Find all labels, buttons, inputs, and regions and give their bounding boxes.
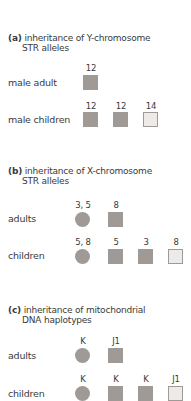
allele-value: 8 xyxy=(161,237,191,247)
allele-value: 3 xyxy=(131,237,161,247)
allele-value: 14 xyxy=(136,101,166,111)
panel-a-heading: (a) inheritance of Y-chromosome STR alle… xyxy=(8,33,150,53)
panel-b-title-line1: inheritance of X-chromosome xyxy=(25,166,152,176)
male-square-unfilled-symbol xyxy=(143,112,158,127)
panel-a-tag: (a) xyxy=(8,33,22,43)
allele-value: 5 xyxy=(101,237,131,247)
panel-c-tag: (c) xyxy=(8,305,21,315)
haplotype-value: J1 xyxy=(101,336,131,346)
panel-b-title-line2: STR alleles xyxy=(8,176,152,186)
panel-b-heading: (b) inheritance of X-chromosome STR alle… xyxy=(8,166,152,186)
male-square-symbol xyxy=(113,112,128,127)
male-square-symbol xyxy=(108,386,123,401)
male-square-symbol xyxy=(108,212,123,227)
panel-c-title-line1: inheritance of mitochondrial xyxy=(24,305,146,315)
male-square-symbol xyxy=(108,249,123,264)
row-label-male-adult: male adult xyxy=(8,77,57,88)
female-circle-symbol xyxy=(75,249,90,264)
male-square-symbol xyxy=(138,249,153,264)
female-circle-symbol xyxy=(75,348,90,363)
row-label-children: children xyxy=(8,388,45,399)
male-square-symbol xyxy=(83,75,98,90)
panel-b-tag: (b) xyxy=(8,166,22,176)
allele-value: 5, 8 xyxy=(68,237,98,247)
allele-value: 12 xyxy=(76,101,106,111)
row-label-children: children xyxy=(8,250,45,261)
allele-value: 3, 5 xyxy=(68,200,98,210)
female-circle-symbol xyxy=(75,386,90,401)
panel-a-title-line1: inheritance of Y-chromosome xyxy=(24,33,150,43)
haplotype-value: K xyxy=(131,374,161,384)
row-label-adults: adults xyxy=(8,213,36,224)
panel-a-title-line2: STR alleles xyxy=(8,43,150,53)
male-square-symbol xyxy=(138,386,153,401)
male-square-symbol xyxy=(108,348,123,363)
panel-c-heading: (c) inheritance of mitochondrial DNA hap… xyxy=(8,305,145,325)
panel-c-title-line2: DNA haplotypes xyxy=(8,315,145,325)
allele-value: 12 xyxy=(76,63,106,73)
male-square-symbol xyxy=(83,112,98,127)
haplotype-value: K xyxy=(101,374,131,384)
row-label-adults: adults xyxy=(8,350,36,361)
male-square-unfilled-symbol xyxy=(168,386,183,401)
allele-value: 8 xyxy=(101,200,131,210)
row-label-male-children: male children xyxy=(8,114,70,125)
haplotype-value: K xyxy=(68,336,98,346)
haplotype-value: J1 xyxy=(161,374,191,384)
haplotype-value: K xyxy=(68,374,98,384)
female-circle-symbol xyxy=(75,212,90,227)
male-square-unfilled-symbol xyxy=(168,249,183,264)
allele-value: 12 xyxy=(106,101,136,111)
